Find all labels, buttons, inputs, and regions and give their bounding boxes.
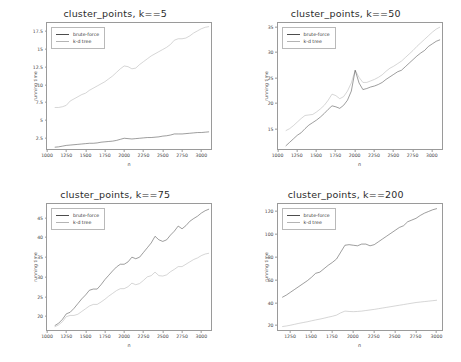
x-tick-mark bbox=[47, 330, 48, 333]
x-tick-label: 2500 bbox=[387, 153, 399, 158]
x-tick-label: 3000 bbox=[195, 153, 207, 158]
y-tick-label: 120 bbox=[265, 208, 274, 213]
x-tick-label: 2750 bbox=[176, 334, 188, 339]
legend-label: brute-force bbox=[73, 32, 99, 37]
line-brute-force bbox=[55, 132, 209, 147]
x-tick-label: 3000 bbox=[426, 153, 438, 158]
x-tick-label: 2000 bbox=[118, 153, 130, 158]
x-tick-mark bbox=[143, 330, 144, 333]
subplot-k75: cluster_points, k==752025303540451000125… bbox=[0, 181, 231, 362]
legend-label: brute-force bbox=[304, 32, 330, 37]
x-tick-mark bbox=[290, 330, 291, 333]
x-tick-label: 1750 bbox=[330, 153, 342, 158]
x-tick-label: 1500 bbox=[310, 153, 322, 158]
legend-item-kd-tree: k-d tree bbox=[287, 219, 330, 226]
x-tick-label: 3000 bbox=[431, 334, 443, 339]
y-tick-label: 5 bbox=[40, 118, 43, 123]
x-tick-label: 2000 bbox=[347, 334, 359, 339]
y-axis-label: running time bbox=[33, 71, 38, 101]
legend-swatch-brute-force bbox=[287, 215, 300, 216]
y-tick-label: 20 bbox=[268, 101, 274, 106]
x-tick-label: 1000 bbox=[41, 334, 53, 339]
x-tick-mark bbox=[432, 149, 433, 152]
y-tick-label: 40 bbox=[268, 300, 274, 305]
legend-item-brute-force: brute-force bbox=[56, 31, 99, 38]
x-axis-label: n bbox=[47, 343, 211, 348]
x-tick-mark bbox=[47, 149, 48, 152]
y-tick-label: 17.5 bbox=[33, 28, 43, 33]
legend-label: k-d tree bbox=[73, 220, 91, 225]
legend: brute-forcek-d tree bbox=[282, 208, 336, 230]
chart-title: cluster_points, k==5 bbox=[0, 8, 231, 19]
x-tick-mark bbox=[394, 330, 395, 333]
matplotlib-figure: cluster_points, k==52.557.51012.51517.51… bbox=[0, 0, 461, 362]
y-axis-label: running time bbox=[33, 252, 38, 282]
x-tick-label: 2500 bbox=[389, 334, 401, 339]
y-tick-label: 15 bbox=[37, 46, 43, 51]
legend-swatch-kd-tree bbox=[56, 41, 69, 42]
x-tick-label: 2250 bbox=[138, 334, 150, 339]
y-tick-label: 25 bbox=[37, 294, 43, 299]
y-tick-label: 45 bbox=[37, 215, 43, 220]
y-tick-label: 2.5 bbox=[36, 136, 43, 141]
x-tick-mark bbox=[66, 149, 67, 152]
plot-area: 2025303540451000125015001750200022502500… bbox=[46, 203, 212, 331]
legend-swatch-kd-tree bbox=[287, 41, 300, 42]
y-tick-label: 20 bbox=[268, 323, 274, 328]
x-tick-mark bbox=[352, 330, 353, 333]
x-tick-mark bbox=[201, 149, 202, 152]
x-tick-label: 3000 bbox=[195, 334, 207, 339]
x-tick-mark bbox=[412, 149, 413, 152]
x-tick-mark bbox=[311, 330, 312, 333]
x-tick-label: 1750 bbox=[326, 334, 338, 339]
x-tick-label: 1250 bbox=[60, 334, 72, 339]
legend-swatch-brute-force bbox=[56, 215, 69, 216]
x-tick-label: 2750 bbox=[410, 334, 422, 339]
chart-title: cluster_points, k==75 bbox=[0, 189, 231, 200]
x-tick-label: 1750 bbox=[99, 153, 111, 158]
x-tick-label: 1500 bbox=[80, 153, 92, 158]
x-tick-label: 1250 bbox=[60, 153, 72, 158]
legend-item-kd-tree: k-d tree bbox=[56, 38, 99, 45]
line-kd-tree bbox=[282, 300, 437, 326]
x-tick-mark bbox=[415, 330, 416, 333]
y-tick-label: 12.5 bbox=[33, 64, 43, 69]
chart-title: cluster_points, k==200 bbox=[231, 189, 461, 200]
x-tick-label: 2750 bbox=[176, 153, 188, 158]
x-tick-mark bbox=[162, 149, 163, 152]
x-tick-mark bbox=[277, 149, 278, 152]
x-tick-label: 2500 bbox=[157, 153, 169, 158]
x-tick-mark bbox=[436, 330, 437, 333]
legend-label: brute-force bbox=[304, 213, 330, 218]
legend: brute-forcek-d tree bbox=[51, 27, 105, 49]
x-tick-mark bbox=[354, 149, 355, 152]
x-tick-mark bbox=[85, 149, 86, 152]
x-tick-label: 1000 bbox=[41, 153, 53, 158]
x-tick-mark bbox=[105, 149, 106, 152]
y-tick-label: 35 bbox=[268, 25, 274, 30]
y-axis-label: running time bbox=[264, 71, 269, 101]
legend-swatch-brute-force bbox=[287, 34, 300, 35]
x-tick-label: 2000 bbox=[118, 334, 130, 339]
legend-item-brute-force: brute-force bbox=[287, 31, 330, 38]
legend-item-brute-force: brute-force bbox=[56, 212, 99, 219]
y-tick-label: 100 bbox=[265, 231, 274, 236]
y-tick-label: 30 bbox=[268, 50, 274, 55]
legend-label: k-d tree bbox=[73, 39, 91, 44]
y-axis-label: running time bbox=[264, 252, 269, 282]
x-tick-mark bbox=[124, 330, 125, 333]
plot-area: 2040608010012012501500175020002250250027… bbox=[277, 203, 443, 331]
x-axis-label: n bbox=[278, 162, 442, 167]
legend-swatch-brute-force bbox=[56, 34, 69, 35]
legend-item-brute-force: brute-force bbox=[287, 212, 330, 219]
x-tick-mark bbox=[374, 149, 375, 152]
chart-title: cluster_points, k==50 bbox=[231, 8, 461, 19]
x-tick-mark bbox=[182, 330, 183, 333]
plot-area: 2.557.51012.51517.5100012501500175020002… bbox=[46, 22, 212, 150]
x-tick-mark bbox=[201, 330, 202, 333]
x-tick-mark bbox=[393, 149, 394, 152]
x-tick-mark bbox=[85, 330, 86, 333]
x-tick-mark bbox=[296, 149, 297, 152]
legend: brute-forcek-d tree bbox=[51, 208, 105, 230]
x-tick-label: 1500 bbox=[305, 334, 317, 339]
